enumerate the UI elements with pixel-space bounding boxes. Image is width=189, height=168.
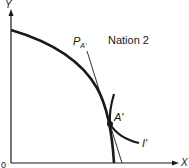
y-axis-label: Y <box>5 0 13 10</box>
nation-title: Nation 2 <box>108 34 149 46</box>
price-line-label-subscript: A' <box>79 42 87 49</box>
origin-label: 0 <box>1 160 6 168</box>
production-possibilities-curve <box>11 30 114 163</box>
price-line-tangent <box>87 51 122 163</box>
equilibrium-point-icon <box>107 121 113 127</box>
nation-2-ppf-diagram: Y X 0 Nation 2 PA' A' I' <box>0 0 189 168</box>
y-axis-arrow-icon <box>9 9 14 16</box>
equilibrium-point-label: A' <box>113 111 124 123</box>
indifference-curve-label: I' <box>142 137 148 149</box>
x-axis <box>11 161 179 166</box>
x-axis-label: X <box>180 157 188 168</box>
y-axis <box>9 9 14 163</box>
price-line-label: PA' <box>73 35 87 49</box>
x-axis-arrow-icon <box>172 161 179 166</box>
